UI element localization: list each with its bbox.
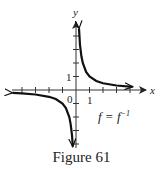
figure-caption: Figure 61: [0, 149, 163, 166]
figure-plot: x y 0 1 1 f = f−1: [0, 0, 163, 169]
y-axis-label: y: [72, 6, 78, 18]
annotation-inverse: f = f−1: [98, 109, 130, 124]
x-axis-label: x: [149, 84, 155, 96]
origin-label: 0: [67, 93, 73, 105]
curve-branch-negative: [13, 93, 73, 147]
curve-branch-positive: [79, 29, 133, 87]
y-tick-label-1: 1: [66, 71, 72, 83]
x-tick-label-1: 1: [87, 94, 93, 106]
